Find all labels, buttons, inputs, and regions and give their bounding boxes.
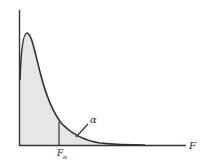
alpha-label: α (90, 114, 97, 125)
critical-value-subscript: α (63, 153, 67, 160)
f-distribution-diagram: F α F α (0, 0, 208, 168)
x-axis-label: F (188, 140, 197, 151)
alpha-pointer (76, 124, 88, 137)
density-area (20, 33, 145, 145)
